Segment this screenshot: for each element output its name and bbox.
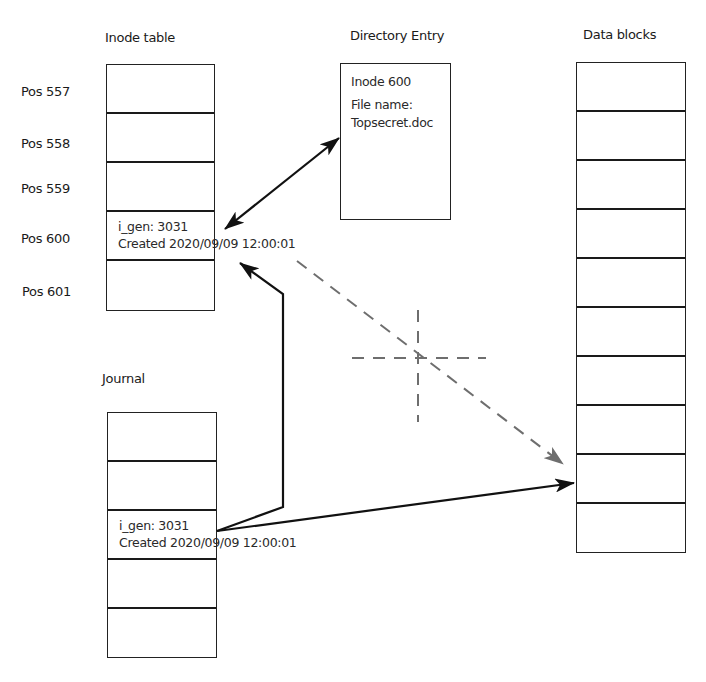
broken-inode-to-data-block-arrow	[297, 261, 563, 464]
journal-to-inode-arrow	[217, 263, 283, 531]
crosshair-break-icon	[352, 310, 486, 422]
connector-arrows	[0, 0, 706, 682]
directory-inode-double-arrow	[225, 138, 339, 229]
journal-to-data-block-arrow	[217, 483, 574, 531]
